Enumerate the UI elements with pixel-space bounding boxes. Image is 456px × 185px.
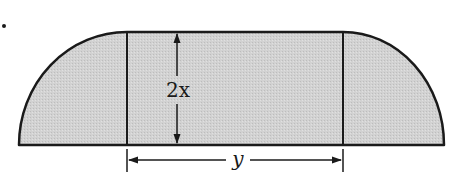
diagram: 2x y xyxy=(0,0,456,185)
height-label: 2x xyxy=(166,78,191,102)
shaded-region xyxy=(19,32,444,145)
bullet-dot xyxy=(2,24,6,28)
width-label: y xyxy=(231,147,244,171)
width-dimension: y xyxy=(127,147,343,172)
